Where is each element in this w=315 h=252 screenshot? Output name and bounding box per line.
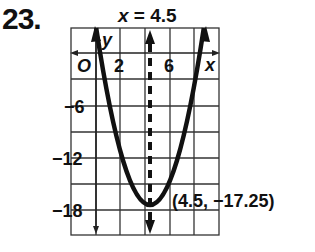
origin-label: O [77,57,91,75]
y-tick-neg12: −12 [52,150,83,168]
x-tick-6: 6 [164,57,174,75]
y-tick-neg18: −18 [52,202,83,220]
y-axis-bottom-arrow [93,226,99,234]
y-axis-label: y [102,31,112,49]
y-tick-neg6: −6 [64,98,85,116]
symmetry-bottom-arrow [145,220,155,234]
x-tick-2: 2 [114,57,124,75]
symmetry-top-arrow [145,30,155,44]
x-axis-label: x [205,56,215,74]
graph-canvas [0,0,315,252]
vertex-label: (4.5, −17.25) [172,192,275,210]
